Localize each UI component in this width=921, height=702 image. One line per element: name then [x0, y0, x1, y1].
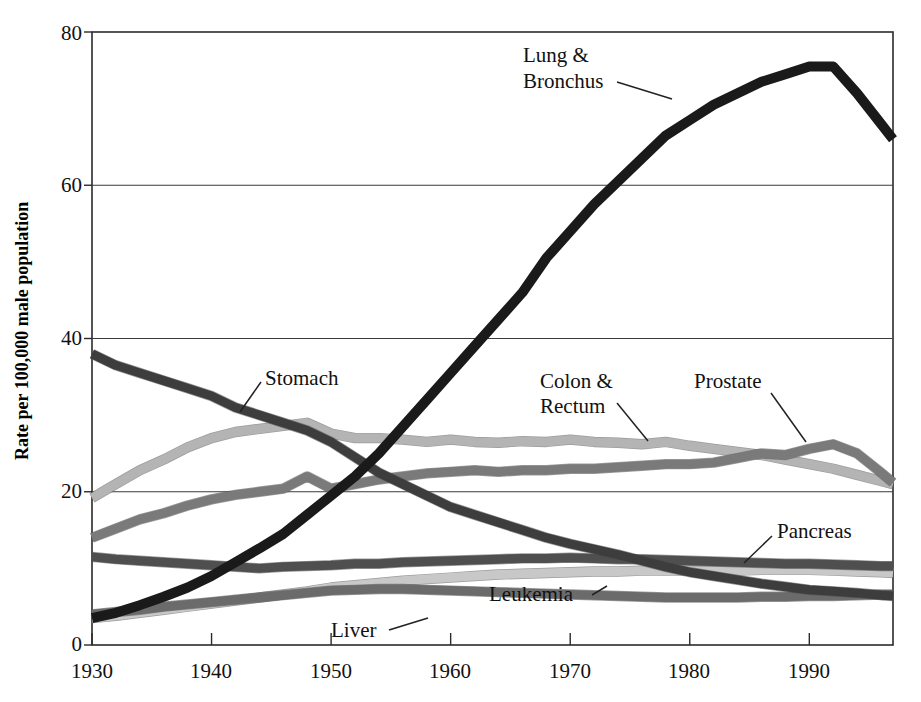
y-tick-label-0: 0: [72, 632, 83, 656]
x-tick-label-1980: 1980: [668, 659, 710, 683]
cancer-mortality-chart: Rate per 100,000 male population 80 60 4…: [0, 0, 921, 702]
leukemia-label: Leukemia: [489, 582, 574, 606]
x-tick-label-1930: 1930: [71, 659, 113, 683]
stomach-label: Stomach: [265, 366, 339, 390]
chart-svg: Rate per 100,000 male population 80 60 4…: [0, 0, 921, 702]
lung-bronchus-label-line1: Lung &: [523, 43, 589, 67]
colon-rectum-label-line1: Colon &: [540, 369, 613, 393]
x-tick-label-1950: 1950: [310, 659, 352, 683]
x-tick-label-1970: 1970: [549, 659, 591, 683]
y-tick-label-60: 60: [61, 173, 82, 197]
pancreas-label: Pancreas: [777, 519, 852, 543]
y-tick-label-80: 80: [61, 21, 82, 45]
lung-bronchus-label-line2: Bronchus: [523, 69, 604, 93]
y-axis-title: Rate per 100,000 male population: [12, 202, 32, 460]
x-tick-labels: 1930 1940 1950 1960 1970 1980 1990: [71, 659, 830, 683]
y-tick-label-40: 40: [61, 326, 82, 350]
y-axis-title-group: Rate per 100,000 male population: [12, 202, 32, 460]
x-tick-label-1960: 1960: [429, 659, 471, 683]
colon-rectum-label-line2: Rectum: [540, 394, 605, 418]
prostate-label: Prostate: [694, 369, 762, 393]
x-tick-label-1940: 1940: [190, 659, 232, 683]
y-tick-labels: 80 60 40 20 0: [61, 21, 82, 656]
y-tick-label-20: 20: [61, 479, 82, 503]
x-tick-label-1990: 1990: [788, 659, 830, 683]
liver-label: Liver: [331, 618, 376, 642]
